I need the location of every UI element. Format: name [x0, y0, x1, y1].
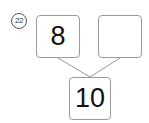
- connector-line-right: [90, 58, 120, 77]
- left-part-box: 8: [36, 15, 80, 58]
- connector-line-left: [58, 58, 90, 77]
- whole-box: 10: [69, 77, 111, 120]
- right-part-answer-box[interactable]: [98, 15, 142, 58]
